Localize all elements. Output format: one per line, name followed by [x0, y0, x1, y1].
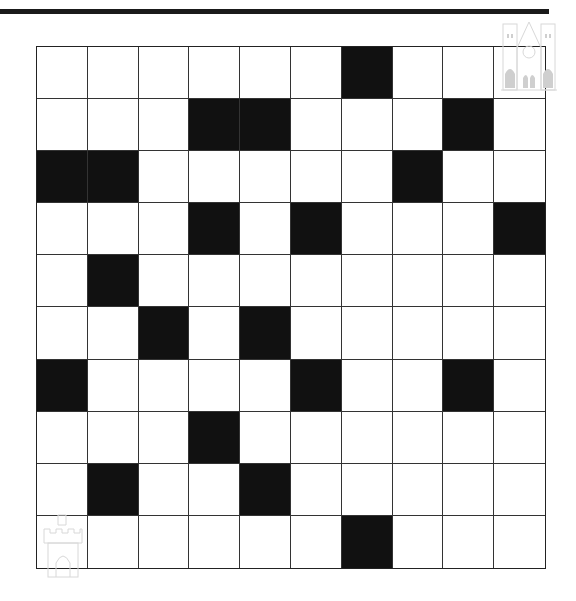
open-cell[interactable] — [342, 151, 393, 203]
open-cell[interactable] — [342, 99, 393, 151]
blocked-cell[interactable] — [342, 516, 393, 568]
blocked-cell[interactable] — [240, 99, 291, 151]
open-cell[interactable] — [342, 360, 393, 412]
blocked-cell[interactable] — [443, 360, 494, 412]
blocked-cell[interactable] — [139, 307, 190, 359]
blocked-cell[interactable] — [88, 464, 139, 516]
open-cell[interactable] — [88, 203, 139, 255]
open-cell[interactable] — [189, 307, 240, 359]
blocked-cell[interactable] — [342, 47, 393, 99]
blocked-cell[interactable] — [189, 203, 240, 255]
open-cell[interactable] — [393, 516, 444, 568]
open-cell[interactable] — [240, 360, 291, 412]
open-cell[interactable] — [88, 47, 139, 99]
open-cell[interactable] — [139, 47, 190, 99]
open-cell[interactable] — [139, 360, 190, 412]
blocked-cell[interactable] — [88, 255, 139, 307]
open-cell[interactable] — [240, 412, 291, 464]
open-cell[interactable] — [494, 360, 545, 412]
open-cell[interactable] — [37, 412, 88, 464]
blocked-cell[interactable] — [88, 151, 139, 203]
open-cell[interactable] — [88, 360, 139, 412]
open-cell[interactable] — [189, 151, 240, 203]
blocked-cell[interactable] — [443, 99, 494, 151]
open-cell[interactable] — [494, 99, 545, 151]
open-cell[interactable] — [189, 464, 240, 516]
blocked-cell[interactable] — [393, 151, 444, 203]
open-cell[interactable] — [494, 151, 545, 203]
blocked-cell[interactable] — [291, 360, 342, 412]
top-bar — [0, 9, 549, 14]
open-cell[interactable] — [291, 516, 342, 568]
open-cell[interactable] — [393, 255, 444, 307]
open-cell[interactable] — [88, 99, 139, 151]
open-cell[interactable] — [88, 412, 139, 464]
open-cell[interactable] — [443, 307, 494, 359]
open-cell[interactable] — [291, 255, 342, 307]
open-cell[interactable] — [189, 516, 240, 568]
open-cell[interactable] — [139, 464, 190, 516]
open-cell[interactable] — [342, 307, 393, 359]
blocked-cell[interactable] — [291, 203, 342, 255]
blocked-cell[interactable] — [240, 307, 291, 359]
open-cell[interactable] — [291, 464, 342, 516]
open-cell[interactable] — [342, 255, 393, 307]
open-cell[interactable] — [240, 255, 291, 307]
open-cell[interactable] — [393, 412, 444, 464]
open-cell[interactable] — [139, 99, 190, 151]
open-cell[interactable] — [393, 360, 444, 412]
open-cell[interactable] — [139, 516, 190, 568]
open-cell[interactable] — [37, 464, 88, 516]
blocked-cell[interactable] — [494, 203, 545, 255]
open-cell[interactable] — [494, 255, 545, 307]
open-cell[interactable] — [37, 307, 88, 359]
open-cell[interactable] — [443, 203, 494, 255]
open-cell[interactable] — [494, 516, 545, 568]
open-cell[interactable] — [139, 151, 190, 203]
open-cell[interactable] — [443, 47, 494, 99]
open-cell[interactable] — [291, 99, 342, 151]
open-cell[interactable] — [189, 255, 240, 307]
open-cell[interactable] — [494, 464, 545, 516]
castle-icon — [40, 513, 86, 579]
open-cell[interactable] — [494, 307, 545, 359]
open-cell[interactable] — [291, 307, 342, 359]
open-cell[interactable] — [189, 47, 240, 99]
blocked-cell[interactable] — [189, 412, 240, 464]
open-cell[interactable] — [342, 412, 393, 464]
blocked-cell[interactable] — [189, 99, 240, 151]
open-cell[interactable] — [240, 203, 291, 255]
open-cell[interactable] — [240, 151, 291, 203]
open-cell[interactable] — [393, 47, 444, 99]
blocked-cell[interactable] — [240, 464, 291, 516]
open-cell[interactable] — [443, 464, 494, 516]
open-cell[interactable] — [37, 255, 88, 307]
open-cell[interactable] — [139, 255, 190, 307]
open-cell[interactable] — [291, 47, 342, 99]
open-cell[interactable] — [494, 412, 545, 464]
open-cell[interactable] — [443, 516, 494, 568]
open-cell[interactable] — [139, 412, 190, 464]
open-cell[interactable] — [37, 99, 88, 151]
blocked-cell[interactable] — [37, 151, 88, 203]
open-cell[interactable] — [139, 203, 190, 255]
open-cell[interactable] — [291, 151, 342, 203]
blocked-cell[interactable] — [37, 360, 88, 412]
open-cell[interactable] — [393, 203, 444, 255]
open-cell[interactable] — [189, 360, 240, 412]
open-cell[interactable] — [88, 307, 139, 359]
open-cell[interactable] — [37, 47, 88, 99]
open-cell[interactable] — [443, 255, 494, 307]
open-cell[interactable] — [240, 516, 291, 568]
open-cell[interactable] — [393, 464, 444, 516]
open-cell[interactable] — [443, 151, 494, 203]
open-cell[interactable] — [393, 307, 444, 359]
open-cell[interactable] — [393, 99, 444, 151]
open-cell[interactable] — [342, 464, 393, 516]
open-cell[interactable] — [37, 203, 88, 255]
open-cell[interactable] — [342, 203, 393, 255]
open-cell[interactable] — [291, 412, 342, 464]
open-cell[interactable] — [240, 47, 291, 99]
open-cell[interactable] — [443, 412, 494, 464]
open-cell[interactable] — [88, 516, 139, 568]
